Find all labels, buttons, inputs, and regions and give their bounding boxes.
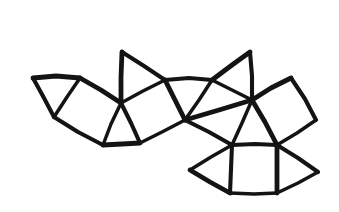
net-edge-r-s xyxy=(230,193,277,194)
net-edge-e-g xyxy=(121,52,122,103)
net-edge-m-r xyxy=(230,145,232,193)
net-edge-d-f xyxy=(103,143,140,145)
net-edge-h-i xyxy=(165,78,212,80)
polyhedron-net-figure xyxy=(0,0,339,212)
net-edge-a-b xyxy=(33,76,80,78)
drawing-canvas xyxy=(0,0,339,212)
net-edge-j-l xyxy=(250,52,252,100)
net-face-square-bottom xyxy=(230,145,277,193)
net-edge-m-p xyxy=(232,144,277,145)
